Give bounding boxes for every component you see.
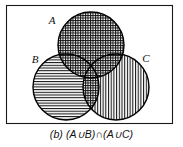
set-c-label: C <box>142 52 150 64</box>
venn-diagram-svg: A B C <box>0 0 183 147</box>
set-b-label: B <box>32 53 39 65</box>
venn-figure: A B C (b) (A∪B)∩(A∪C) <box>0 0 183 147</box>
figure-caption: (b) (A∪B)∩(A∪C) <box>0 128 183 140</box>
set-a-label: A <box>48 14 56 26</box>
